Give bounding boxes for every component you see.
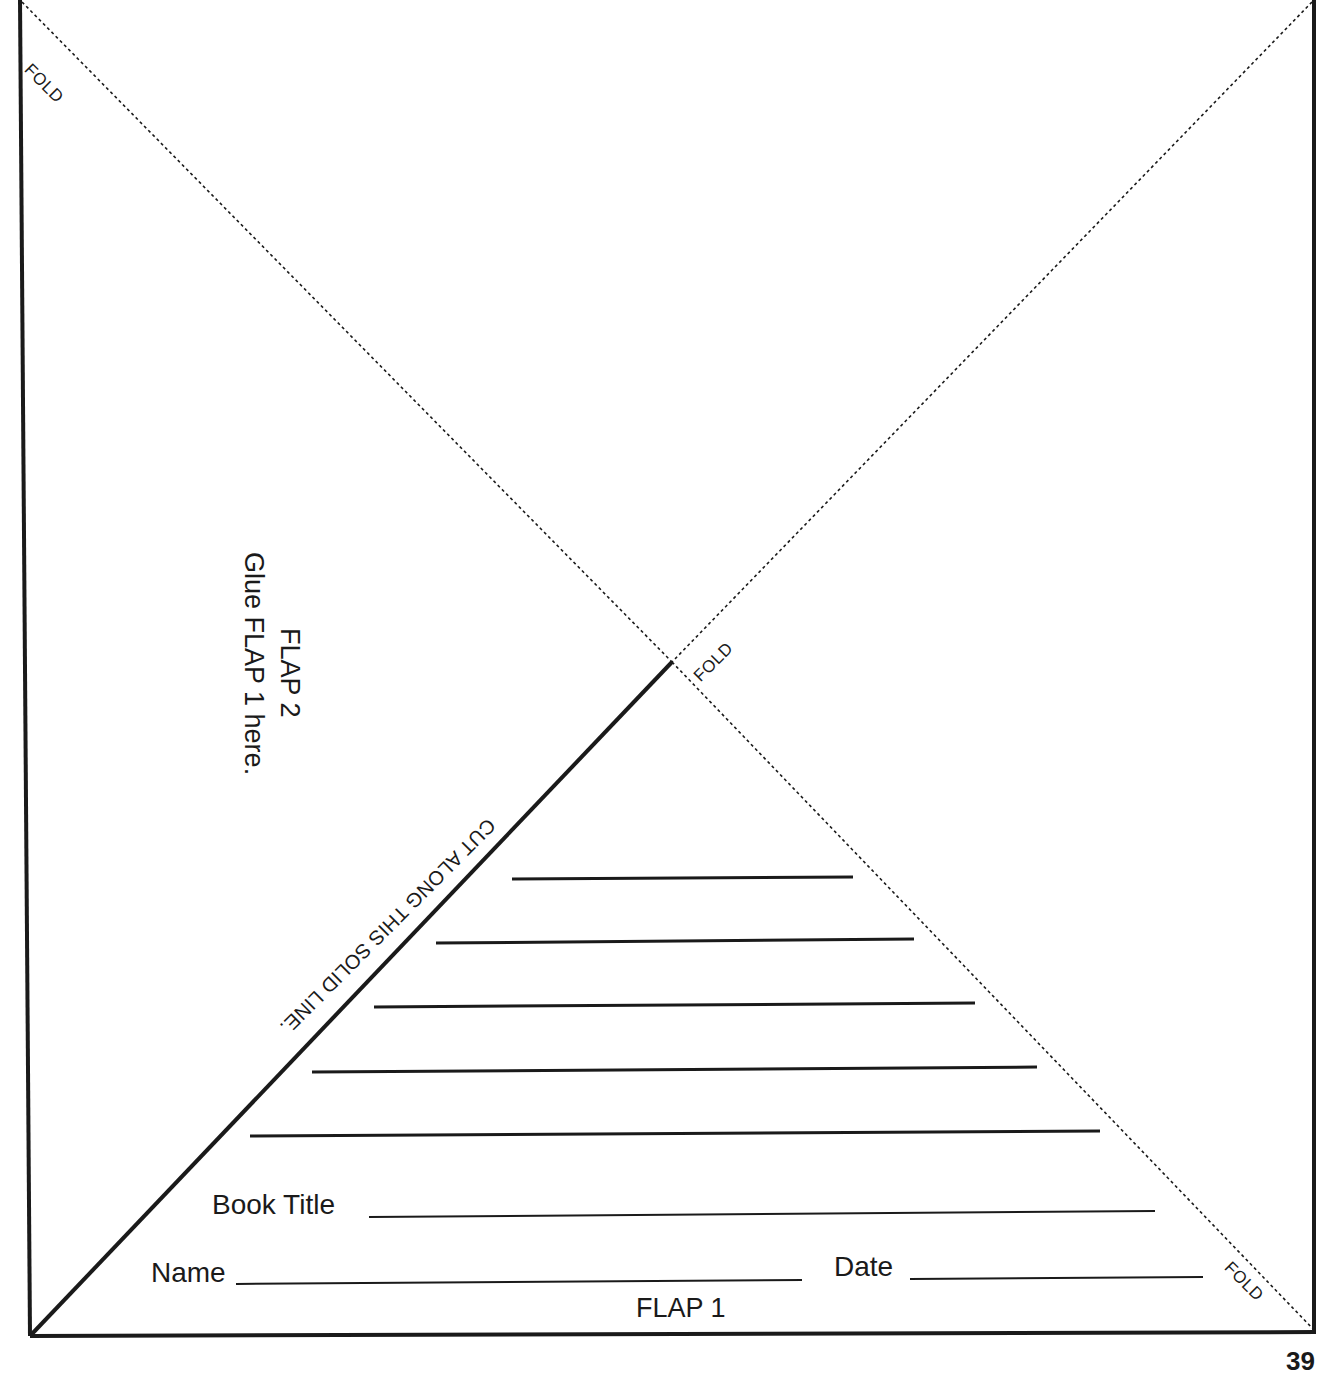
- name-label: Name: [151, 1257, 226, 1289]
- bottom-border: [30, 1332, 1316, 1336]
- book-title-label: Book Title: [212, 1189, 335, 1221]
- fold-line-top-right: [672, 2, 1312, 662]
- page-number: 39: [1286, 1346, 1315, 1374]
- flap2-label-block: FLAP 2 Glue FLAP 1 here.: [236, 628, 308, 775]
- name-underline[interactable]: [236, 1280, 802, 1284]
- writing-line-5[interactable]: [250, 1131, 1100, 1136]
- date-underline[interactable]: [910, 1277, 1203, 1279]
- fold-line-bottom-right: [672, 662, 1314, 1330]
- left-border: [20, 0, 30, 1336]
- fold-line-top-left: [22, 2, 672, 662]
- book-title-underline[interactable]: [369, 1211, 1155, 1217]
- flap2-instruction: Glue FLAP 1 here.: [236, 552, 272, 775]
- flap1-label: FLAP 1: [636, 1293, 726, 1324]
- writing-line-2[interactable]: [436, 939, 914, 943]
- writing-line-3[interactable]: [374, 1003, 975, 1007]
- writing-line-4[interactable]: [312, 1067, 1037, 1072]
- cut-line: [30, 662, 672, 1336]
- date-label: Date: [834, 1251, 893, 1283]
- flap2-title: FLAP 2: [272, 628, 308, 775]
- writing-line-1[interactable]: [512, 877, 853, 879]
